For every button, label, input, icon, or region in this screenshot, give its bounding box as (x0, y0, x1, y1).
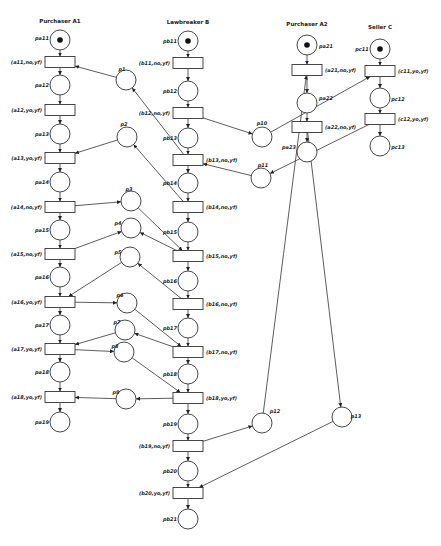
place-pb20[interactable] (178, 461, 198, 481)
transition-label: (c12,yo,yf) (398, 116, 428, 123)
place-pb21[interactable] (178, 509, 198, 529)
place-pa16[interactable] (50, 267, 70, 287)
place-label: p8 (110, 343, 119, 350)
arc-b15-to-p4 (140, 232, 177, 250)
transition-c12[interactable] (365, 114, 395, 125)
place-pc12[interactable] (370, 88, 390, 108)
place-label: p12 (269, 408, 281, 415)
place-label: pc13 (390, 144, 405, 151)
transition-a15[interactable] (45, 249, 75, 260)
place-pa19[interactable] (50, 412, 70, 432)
transition-label: (a15,no,yf) (11, 251, 42, 258)
place-label: pb12 (162, 88, 178, 95)
place-label: pc11 (354, 46, 369, 53)
place-p2[interactable] (117, 127, 137, 147)
place-pa13[interactable] (50, 124, 70, 144)
transition-label: (b18,yo,yf) (206, 395, 237, 402)
arc-p11-to-b13 (203, 164, 251, 176)
transition-b12[interactable] (173, 108, 203, 119)
transition-label: (a11,no,yf) (11, 59, 42, 66)
transition-label: (b12,no,yf) (139, 110, 170, 117)
arc-a22-to-p13 (308, 133, 341, 408)
place-pb17[interactable] (178, 318, 198, 338)
arc-b19-to-p12 (203, 426, 252, 441)
transition-label: (b13,no,yf) (206, 157, 237, 164)
arc-p7-to-a17 (75, 333, 115, 345)
transition-b16[interactable] (173, 299, 203, 310)
transition-label: (a17,yo,yf) (11, 346, 42, 353)
arc-b14-to-p2 (134, 145, 184, 202)
arc-b13-to-p1 (132, 88, 184, 155)
transition-b19[interactable] (173, 441, 203, 452)
place-pa15[interactable] (50, 220, 70, 240)
place-label: pa17 (34, 322, 49, 329)
petri-net-canvas: pa11pa12pa13pa14pa15pa16pa17pa18pa19pb11… (0, 0, 441, 546)
place-label: p4 (113, 220, 122, 227)
place-pa18[interactable] (50, 362, 70, 382)
transition-a13[interactable] (45, 153, 75, 164)
place-p12[interactable] (252, 413, 272, 433)
transition-label: (c11,yo,yf) (398, 68, 428, 75)
transition-label: (b17,no,yf) (206, 349, 237, 356)
place-label: pc12 (390, 96, 405, 103)
place-label: p11 (257, 162, 269, 169)
transition-b14[interactable] (173, 202, 203, 213)
place-pc13[interactable] (370, 136, 390, 156)
transition-b17[interactable] (173, 347, 203, 358)
place-pb14[interactable] (178, 173, 198, 193)
place-pb12[interactable] (178, 81, 198, 101)
place-pa14[interactable] (50, 172, 70, 192)
place-pb16[interactable] (178, 271, 198, 291)
transition-label: (b11,no,yf) (139, 60, 170, 67)
place-label: p10 (256, 120, 268, 127)
place-label: p7 (112, 319, 121, 326)
place-p4[interactable] (121, 218, 141, 238)
actor-title-a2: Purchaser A2 (286, 21, 327, 27)
place-p3[interactable] (121, 191, 141, 211)
token-dot (377, 46, 383, 52)
arc-p2-to-a13 (75, 140, 117, 153)
place-pb15[interactable] (178, 222, 198, 242)
transition-a12[interactable] (45, 105, 75, 116)
place-pa22[interactable] (297, 93, 317, 113)
transition-a22[interactable] (292, 122, 322, 133)
transition-label: (b16,no,yf) (206, 301, 237, 308)
transition-a17[interactable] (45, 344, 75, 355)
place-pb18[interactable] (178, 364, 198, 384)
token-dot (57, 37, 63, 43)
place-label: pb14 (162, 180, 178, 187)
place-p5[interactable] (120, 247, 140, 267)
transition-a11[interactable] (45, 57, 75, 68)
transition-label: (a21,no,yf) (325, 67, 356, 74)
transition-a16[interactable] (45, 297, 75, 308)
transition-b11[interactable] (173, 58, 203, 69)
arc-a16-to-p6 (75, 302, 117, 303)
place-label: pb15 (162, 229, 178, 236)
arc-p1-to-a11 (75, 66, 116, 77)
transition-b15[interactable] (173, 251, 203, 262)
place-label: pa21 (318, 43, 333, 50)
transition-a14[interactable] (45, 202, 75, 213)
token-dot (185, 38, 191, 44)
place-pa23[interactable] (297, 142, 317, 162)
place-label: pb11 (162, 38, 177, 45)
place-pb19[interactable] (178, 414, 198, 434)
place-pa17[interactable] (50, 315, 70, 335)
place-pb13[interactable] (178, 128, 198, 148)
transition-c11[interactable] (365, 66, 395, 77)
arcs-layer (60, 50, 380, 509)
place-p10[interactable] (252, 127, 272, 147)
place-label: pa23 (281, 144, 296, 151)
place-p13[interactable] (332, 407, 352, 427)
place-pa12[interactable] (50, 75, 70, 95)
place-p11[interactable] (251, 168, 271, 188)
transition-b13[interactable] (173, 155, 203, 166)
transition-b20[interactable] (173, 488, 203, 499)
arc-a17-to-p8 (75, 350, 114, 352)
transition-a21[interactable] (292, 65, 322, 76)
arc-a14-to-p3 (75, 202, 121, 206)
transition-a18[interactable] (45, 392, 75, 403)
labels-layer: pa11pa12pa13pa14pa15pa16pa17pa18pa19pb11… (11, 18, 429, 523)
transition-b18[interactable] (173, 393, 203, 404)
place-p1[interactable] (116, 70, 136, 90)
